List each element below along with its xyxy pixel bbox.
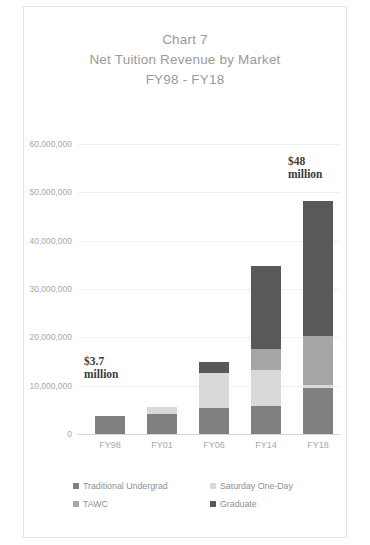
annotation-fy18-line-2: million [288,168,323,181]
chart-title-line-1: Chart 7 [40,30,330,50]
bar-segment-tawc[interactable] [251,349,281,370]
annotation-fy98-line-2: million [84,368,119,381]
x-tick-label-fy18: FY18 [292,440,344,450]
bar-group-fy18[interactable]: FY18 [292,144,344,434]
chart-card: Chart 7 Net Tuition Revenue by Market FY… [0,0,370,545]
bar-segment-tawc[interactable] [303,336,333,385]
legend-label: Graduate [220,499,257,509]
x-tick-label-fy14: FY14 [240,440,292,450]
bar-group-fy01[interactable]: FY01 [136,144,188,434]
bar-segment-saturday-one-day[interactable] [147,407,177,414]
y-axis-tick-labels: 60,000,000 50,000,000 40,000,000 30,000,… [0,144,72,436]
axis-baseline [78,434,340,435]
annotation-fy18-line-1: $48 [288,155,323,168]
y-tick-label: 10,000,000 [6,381,72,391]
chart-title-line-3: FY98 - FY18 [40,70,330,90]
legend-item-traditional-undergrad[interactable]: Traditional Undergrad [73,481,168,491]
stacked-bar[interactable] [303,201,333,434]
bar-segment-traditional-undergrad[interactable] [199,408,229,434]
annotation-fy18-total: $48 million [288,155,323,181]
y-tick-label: 50,000,000 [6,187,72,197]
x-tick-label-fy01: FY01 [136,440,188,450]
y-tick-label: 30,000,000 [6,284,72,294]
stacked-bar[interactable] [251,266,281,434]
bar-segment-traditional-undergrad[interactable] [147,414,177,434]
bar-segment-saturday-one-day[interactable] [303,385,333,388]
y-tick-label: 40,000,000 [6,236,72,246]
stacked-bar[interactable] [147,407,177,434]
bar-segment-saturday-one-day[interactable] [199,373,229,408]
legend-item-saturday-one-day[interactable]: Saturday One-Day [210,481,293,491]
plot-area: FY98 FY01 FY06 [78,144,340,434]
legend-item-tawc[interactable]: TAWC [73,499,108,509]
x-tick-label-fy98: FY98 [84,440,136,450]
chart-title-line-2: Net Tuition Revenue by Market [40,50,330,70]
chart-legend: Traditional Undergrad Saturday One-Day T… [70,481,340,517]
x-tick-label-fy06: FY06 [188,440,240,450]
bar-segment-traditional-undergrad[interactable] [95,416,125,434]
bar-group-fy06[interactable]: FY06 [188,144,240,434]
legend-swatch-icon [210,501,216,507]
bar-segment-graduate[interactable] [199,362,229,373]
bar-group-fy98[interactable]: FY98 [84,144,136,434]
bar-segment-graduate[interactable] [303,201,333,336]
bar-segment-traditional-undergrad[interactable] [303,388,333,434]
legend-swatch-icon [73,483,79,489]
y-tick-label: 60,000,000 [6,139,72,149]
stacked-bar[interactable] [199,362,229,434]
y-tick-label: 20,000,000 [6,332,72,342]
stacked-bar[interactable] [95,416,125,434]
bar-segment-saturday-one-day[interactable] [251,370,281,406]
legend-swatch-icon [210,483,216,489]
legend-swatch-icon [73,501,79,507]
bar-segment-traditional-undergrad[interactable] [251,406,281,434]
annotation-fy98-line-1: $3.7 [84,355,119,368]
y-tick-label: 0 [6,429,72,439]
legend-label: Traditional Undergrad [83,481,168,491]
legend-label: Saturday One-Day [220,481,293,491]
bar-segment-graduate[interactable] [251,266,281,349]
bar-group-fy14[interactable]: FY14 [240,144,292,434]
legend-label: TAWC [83,499,108,509]
legend-item-graduate[interactable]: Graduate [210,499,257,509]
annotation-fy98-total: $3.7 million [84,355,119,381]
chart-title: Chart 7 Net Tuition Revenue by Market FY… [40,30,330,90]
